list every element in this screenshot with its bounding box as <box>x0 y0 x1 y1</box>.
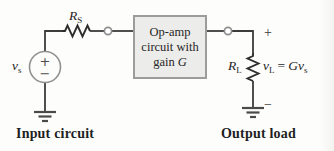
opamp-box-line2: circuit with <box>141 40 198 55</box>
opamp-box-label: Op-amp circuit with gain G <box>134 16 206 78</box>
caption-input-circuit: Input circuit <box>16 126 94 141</box>
output-voltage-equation: vL=Gvs <box>263 59 307 76</box>
input-node-terminal <box>104 27 111 34</box>
opamp-box-line3: gain G <box>153 55 187 70</box>
caption-output-load: Output load <box>221 126 296 141</box>
circuit-diagram: + − vs RS Op-amp circuit with gain G + −… <box>0 0 334 151</box>
wire-node-to-rl <box>232 31 253 53</box>
output-minus-sign: − <box>261 97 275 112</box>
ground-symbol-input <box>34 112 56 121</box>
rs-label: RS <box>69 9 82 26</box>
output-node-terminal <box>224 27 231 34</box>
output-plus-sign: + <box>261 25 275 40</box>
opamp-box-line1: Op-amp <box>150 25 191 40</box>
equals-sign: = <box>278 58 286 73</box>
rl-label: RL <box>228 59 242 76</box>
source-voltage-label: vs <box>12 59 22 76</box>
resistor-rs <box>62 26 90 37</box>
wire-source-to-rs <box>45 31 62 52</box>
gain-symbol: G <box>178 55 187 69</box>
source-minus-sign: − <box>40 67 51 80</box>
resistor-rl <box>248 53 259 81</box>
